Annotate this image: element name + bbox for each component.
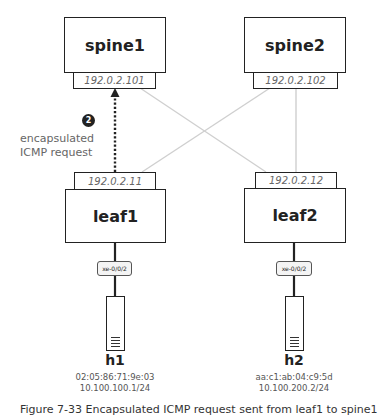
spine1-ip-text: 192.0.2.101 [84,75,144,86]
step-2-badge: 2 [82,114,95,127]
h1-server-icon [106,296,125,351]
link-spine2-leaf1 [142,88,270,172]
arrowhead-icon [111,88,120,97]
h1-info: 02:05:86:71:9e:03 10.100.100.1/24 [55,372,175,394]
step-number: 2 [86,116,92,125]
figure-caption: Figure 7-33 Encapsulated ICMP request se… [20,403,378,416]
spine2-node: spine2 [244,17,346,73]
annotation-line-1: encapsulated [20,132,94,146]
link-spine1-leaf2 [140,88,266,172]
annotation-line-2: ICMP request [20,146,94,160]
leaf2-port-text: xe-0/0/2 [282,265,307,272]
leaf1-node: leaf1 [65,189,166,243]
leaf2-ip-text: 192.0.2.12 [269,175,323,186]
spine1-ip: 192.0.2.101 [73,72,156,89]
spine2-label: spine2 [265,36,325,55]
h1-ip: 10.100.100.1/24 [55,383,175,394]
step-annotation: encapsulated ICMP request [20,132,94,160]
leaf2-port-label: xe-0/0/2 [276,261,312,276]
h2-mac: aa:c1:ab:04:c9:5d [234,372,354,383]
spine2-ip: 192.0.2.102 [253,72,338,89]
h1-mac: 02:05:86:71:9e:03 [55,372,175,383]
h1-label: h1 [85,352,145,368]
h2-info: aa:c1:ab:04:c9:5d 10.100.200.2/24 [234,372,354,394]
spine1-label: spine1 [85,36,145,55]
leaf2-ip: 192.0.2.12 [255,172,337,189]
leaf1-port-label: xe-0/0/2 [97,261,132,276]
spine2-ip-text: 192.0.2.102 [265,75,325,86]
leaf1-ip: 192.0.2.11 [74,172,156,190]
leaf2-label: leaf2 [272,206,317,225]
h2-server-icon [285,296,304,351]
leaf2-node: leaf2 [244,188,346,243]
h2-ip: 10.100.200.2/24 [234,383,354,394]
h2-label: h2 [264,352,324,368]
leaf1-label: leaf1 [93,207,138,226]
leaf1-port-text: xe-0/0/2 [102,265,127,272]
leaf1-ip-text: 192.0.2.11 [88,176,142,187]
spine1-node: spine1 [64,17,166,73]
